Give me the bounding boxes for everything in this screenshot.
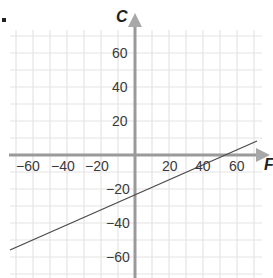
y-tick-label: −20 xyxy=(106,181,130,197)
graph: C F 60 40 20 −20 −40 −60 −60 −40 −20 20 … xyxy=(0,0,273,278)
y-tick-label: −40 xyxy=(106,215,130,231)
y-tick-label: −60 xyxy=(106,249,130,265)
x-tick-label: −60 xyxy=(16,158,40,174)
x-tick-label: 60 xyxy=(229,158,245,174)
x-axis-label: F xyxy=(264,156,273,173)
y-tick-label: 20 xyxy=(112,113,128,129)
x-tick-label: 40 xyxy=(195,158,211,174)
x-tick-label: −40 xyxy=(51,158,75,174)
y-axis-label: C xyxy=(116,8,128,25)
x-tick-label: −20 xyxy=(85,158,109,174)
y-tick-label: 40 xyxy=(112,79,128,95)
y-axis-arrow-icon xyxy=(128,13,142,27)
y-tick-label: 60 xyxy=(112,45,128,61)
x-tick-label: 20 xyxy=(162,158,178,174)
